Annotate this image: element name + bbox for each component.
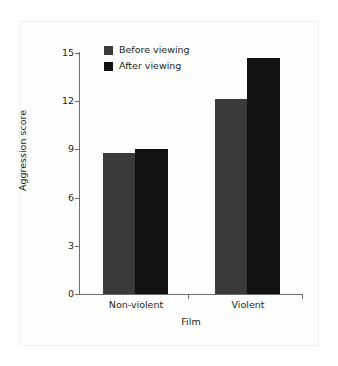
legend-label-before: Before viewing [119,45,190,55]
x-category-label-violent: Violent [198,300,298,310]
y-tick-mark-15 [75,53,79,54]
legend-swatch-before-icon [104,46,113,55]
y-tick-label-0: 0 [48,289,74,299]
y-axis-title: Aggression score [17,91,28,211]
legend-swatch-after-icon [104,62,113,71]
y-tick-15: 15 [48,48,74,58]
y-tick-3: 3 [48,241,74,251]
y-tick-mark-3 [75,246,79,247]
bar-nonviolent-before [103,153,135,294]
x-tick-separator [188,295,189,299]
y-tick-label-12: 12 [48,96,74,106]
legend-label-after: After viewing [119,61,181,71]
y-tick-label-6: 6 [48,193,74,203]
y-tick-mark-0 [75,294,79,295]
y-tick-mark-12 [75,101,79,102]
x-tick-end [302,295,303,299]
x-axis-title: Film [79,316,303,327]
y-axis-line [79,52,80,295]
y-tick-6: 6 [48,193,74,203]
chart-figure: 15 12 9 6 3 0 Non-violent [0,0,338,366]
y-tick-label-15: 15 [48,48,74,58]
bar-violent-before [215,99,247,294]
y-tick-label-3: 3 [48,241,74,251]
plot-area: 15 12 9 6 3 0 Non-violent [0,0,338,366]
y-tick-mark-6 [75,198,79,199]
bar-nonviolent-after [135,149,168,294]
legend-item-before: Before viewing [104,43,190,57]
y-tick-12: 12 [48,96,74,106]
x-axis-line [79,294,303,295]
y-tick-9: 9 [48,144,74,154]
bar-violent-after [247,58,280,294]
x-category-label-nonviolent: Non-violent [86,300,186,310]
y-tick-mark-9 [75,149,79,150]
chart-legend: Before viewing After viewing [104,43,190,75]
y-tick-0: 0 [48,289,74,299]
y-tick-label-9: 9 [48,144,74,154]
legend-item-after: After viewing [104,59,190,73]
